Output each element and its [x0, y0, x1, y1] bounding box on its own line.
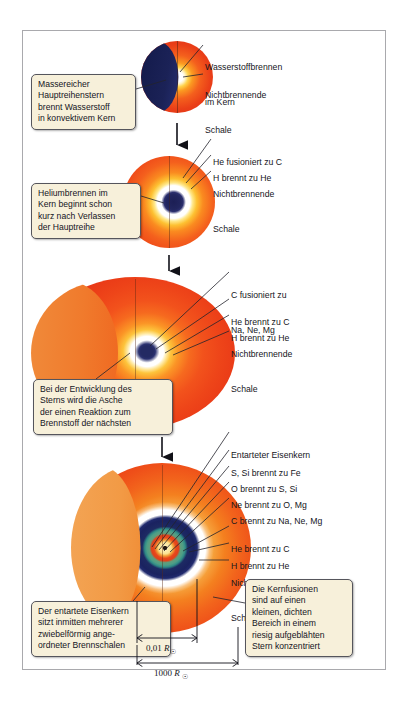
label-3d-line-1: Nichtbrennende — [231, 349, 292, 361]
callout-1-line-3: brennt Wasserstoff — [38, 102, 130, 113]
label-stage-3-nonburning-shell: Nichtbrennende Schale — [231, 326, 292, 419]
callout-4r-line-2: sind auf einen — [252, 595, 347, 606]
callout-3-line-4: Brennstoff der nächsten — [40, 418, 167, 429]
callout-2-line-3: kurz nach Verlassen — [38, 211, 135, 222]
scale-inner-value: 0,01 — [146, 643, 162, 653]
callout-1-line-1: Massereicher — [38, 79, 130, 90]
scale-outer-unit: R — [174, 668, 180, 678]
callout-4r-line-3: kleinen, dichten — [252, 607, 347, 618]
callout-3-line-2: Sterns wird die Asche — [40, 395, 167, 406]
callout-stage-4-right: Die Kernfusionen sind auf einen kleinen,… — [245, 579, 353, 657]
callout-4l-line-2: sitzt inmitten mehrerer — [38, 617, 165, 628]
callout-stage-1: Massereicher Hauptreihenstern brennt Was… — [31, 74, 136, 130]
callout-stage-3: Bei der Entwicklung des Sterns wird die … — [33, 379, 173, 435]
callout-1-line-4: in konvektivem Kern — [38, 113, 130, 124]
scale-outer-value: 1000 — [154, 668, 172, 678]
callout-4r-line-4: Bereich in einem — [252, 618, 347, 629]
callout-4l-line-3: zwiebelförmig ange- — [38, 629, 165, 640]
callout-4r-line-5: riesig aufgeblähten — [252, 630, 347, 641]
star-stage-1 — [141, 41, 213, 113]
label-1b-line-1: Nichtbrennende — [205, 90, 266, 102]
callout-4r-line-1: Die Kernfusionen — [252, 584, 347, 595]
star-2-axis — [169, 156, 170, 248]
star-1-axis — [177, 41, 178, 113]
callout-2-line-2: Kern beginnt schon — [38, 199, 135, 210]
callout-4l-line-1: Der entartete Eisenkern — [38, 606, 165, 617]
figure-panel: Massereicher Hauptreihenstern brennt Was… — [22, 30, 386, 670]
callout-3-line-3: der einen Reaktion zum — [40, 407, 167, 418]
label-2c-line-2: Schale — [213, 224, 274, 236]
scale-inner-sub: ☉ — [170, 648, 176, 656]
label-2c-line-1: Nichtbrennende — [213, 189, 274, 201]
callout-1-line-2: Hauptreihenstern — [38, 90, 130, 101]
callout-4r-line-6: Stern konzentriert — [252, 641, 347, 652]
scale-label-outer: 1000 R ☉ — [154, 668, 188, 681]
callout-2-line-1: Heliumbrennen im — [38, 188, 135, 199]
callout-3-line-1: Bei der Entwicklung des — [40, 384, 167, 395]
label-3d-line-2: Schale — [231, 384, 292, 396]
scale-label-inner: 0,01 R☉ — [146, 643, 176, 656]
label-stage-2-nonburning-shell: Nichtbrennende Schale — [213, 166, 274, 259]
scale-outer-sub: ☉ — [182, 673, 188, 681]
callout-stage-2: Heliumbrennen im Kern beginnt schon kurz… — [31, 183, 141, 239]
callout-2-line-4: der Hauptreihe — [38, 222, 135, 233]
